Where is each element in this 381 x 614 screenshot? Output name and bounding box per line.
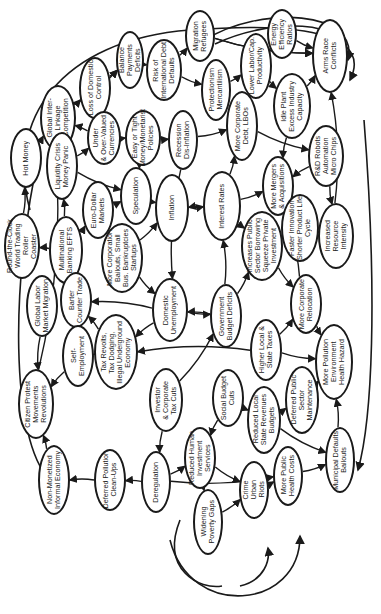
diagram-node: Increases Public Sector Borrowing Squeez…: [241, 211, 283, 281]
edge-arrow: [296, 41, 312, 48]
node-label: Investor & Corporate Tax Cuts: [154, 381, 178, 420]
diagram-node: Interest Rates: [203, 171, 241, 241]
diagram-node: Loss of Domestic Control: [79, 57, 111, 119]
node-label: More Corporate Debt, LBOs: [234, 101, 250, 151]
node-label: Lower Labor/Cap. Productivity: [248, 37, 264, 94]
edge-arrow: [136, 323, 153, 337]
diagram-node: Non-Monetized Informal Economy: [38, 445, 70, 515]
node-label: More Mergers & Acquisitions: [270, 164, 286, 209]
edge-arrow: [182, 77, 202, 85]
node-label: Easy or Tight Money/Monetarist Policies: [131, 109, 155, 166]
edge-arrow: [222, 500, 240, 512]
edge-arrow: [330, 186, 332, 204]
diagram-node: Under & Over-Valued Currencies: [87, 111, 121, 165]
node-label: Crime Urban Riots: [242, 480, 266, 500]
diagram-node: Speculation: [120, 167, 152, 225]
diagram-node: Liquidity Crisis Money Panic: [46, 132, 78, 200]
edge-arrow: [215, 467, 239, 481]
node-label: Higher Local & State Taxes: [258, 326, 274, 373]
node-label: Non-Monetized Informal Economy: [46, 451, 62, 509]
edge-arrow: [114, 202, 121, 204]
diagram-node: Global Labor Market Migration: [26, 275, 58, 337]
diagram-node: More Pollution Environment Health Hazard: [315, 324, 353, 400]
diagram-node: Government Budget Deficits: [210, 284, 242, 348]
node-label: More Pollution Environment Health Hazard: [322, 339, 346, 385]
diagram-node: Reduced Human Investment Services: [184, 427, 216, 489]
edge-arrow: [230, 75, 240, 81]
node-label: Faster Innovation Shorter Product Life C…: [288, 196, 312, 260]
diagram-node: More Public Health Costs: [273, 446, 303, 506]
edge-arrow: [138, 346, 250, 351]
causal-loop-diagram: Global Inter- Linkage CompetitionLoss of…: [0, 0, 381, 614]
diagram-node: Hot Money: [10, 128, 42, 188]
node-label: Arms Race Conflicts: [322, 38, 338, 74]
diagram-node: Widening Poverty Gaps: [193, 489, 223, 555]
node-label: Tax Revolts, Tax Dodging, Illegal Underg…: [100, 321, 132, 384]
diagram-node: More Corporate Relocation: [290, 274, 322, 334]
node-label: Under & Over-Valued Currencies: [92, 115, 116, 162]
edge-arrow: [282, 353, 315, 359]
node-label: Government Budget Deficits: [218, 292, 234, 340]
edge-arrow: [76, 126, 88, 131]
diagram-node: Faster Innovation Shorter Product Life C…: [281, 194, 319, 262]
node-label: Increased Resource Intensity: [324, 220, 348, 252]
node-label: Increases Public Sector Borrowing Squeez…: [246, 218, 278, 273]
node-label: Inflation: [168, 195, 176, 220]
node-label: More Corporate Relocation: [298, 279, 314, 329]
diagram-node: Citizen Protest Movements Revolutions: [18, 369, 54, 439]
edge-arrow: [40, 248, 49, 249]
edge-arrow: [303, 465, 325, 472]
diagram-node: Crime Urban Riots: [239, 461, 269, 519]
diagram-node: Municipal Defaults Bailouts: [325, 427, 355, 493]
edge-arrow: [70, 479, 94, 480]
node-label: Deferred Public Sector Maintenance: [290, 375, 314, 425]
diagram-node: Round-the-Clock World Trading Roller Coa…: [4, 213, 40, 279]
diagram-node: Balance Payments Deficits: [116, 31, 144, 89]
edge-arrow: [44, 436, 47, 449]
diagram-node: Investor & Corporate Tax Cuts: [149, 368, 183, 432]
edge-arrow: [230, 157, 234, 175]
diagram-node: Recession Dis-Inflation: [168, 110, 198, 170]
edge-arrow: [171, 466, 185, 474]
diagram-node: Arms Race Conflicts: [312, 19, 348, 93]
node-label: Energy Efficiency Ratios: [270, 19, 294, 50]
edge-arrow: [92, 301, 152, 308]
node-label: Speculation: [132, 177, 140, 215]
edge-arrow: [180, 48, 187, 55]
node-label: Deferred Pollution Clean-Ups: [102, 451, 118, 509]
edge-arrow: [89, 317, 99, 329]
edge-arrow: [23, 188, 25, 213]
node-label: Widening Poverty Gaps: [200, 500, 216, 544]
node-label: Domestic Unemployment: [162, 286, 178, 334]
edge-arrow: [283, 138, 286, 158]
node-label: Risk of International Debt Defaults: [152, 42, 176, 99]
node-label: Multinational Banking EFTS: [58, 227, 74, 273]
diagram-node: Higher Local & State Taxes: [250, 319, 282, 381]
diagram-node: Energy Efficiency Ratios: [267, 9, 297, 59]
node-label: Reduced Local State Revenues Budgets: [252, 394, 276, 445]
node-label: Reduced Human Investment Services: [188, 431, 212, 485]
edge-arrow: [223, 241, 226, 284]
edge-arrow: [293, 167, 309, 177]
node-label: Balance Payments Deficits: [118, 33, 142, 87]
node-label: Global Labor Market Migration: [34, 279, 50, 333]
node-label: Loss of Domestic Control: [87, 60, 103, 115]
edge-arrow: [77, 148, 88, 155]
node-label: Social Budget Cuts: [220, 376, 236, 420]
edge-arrow: [336, 400, 338, 428]
node-label: Recession Dis-Inflation: [175, 121, 191, 159]
edge-arrow: [241, 192, 263, 200]
edge-arrow: [198, 130, 226, 137]
edge-arrow: [307, 76, 315, 86]
diagram-node: Easy or Tight Money/Monetarist Policies: [125, 110, 161, 166]
diagram-node: Idle Plant Excess Industry Capacity: [273, 73, 311, 139]
diagram-node: Barter Counter Trade: [60, 272, 92, 328]
edge-arrow: [64, 200, 65, 216]
node-label: Self- Employment: [70, 336, 86, 376]
diagram-node: Deregulation: [141, 451, 171, 513]
node-label: Deregulation: [152, 462, 160, 503]
edge-arrow: [160, 431, 163, 452]
diagram-node: Increased Resource Intensity: [318, 203, 354, 269]
diagram-node: Social Budget Cuts: [212, 369, 244, 427]
node-label: Protectionism Mercantilism: [208, 68, 224, 112]
